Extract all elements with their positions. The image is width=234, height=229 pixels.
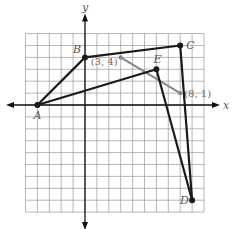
coordinate-plane: xy (3, 4)(8, 1) ABCDE	[0, 0, 234, 229]
y-axis-arrow-up-icon	[82, 14, 88, 22]
y-axis-arrow-down-icon	[82, 222, 88, 229]
vertex-C	[177, 43, 183, 49]
segment-3-4-to-8-1	[121, 57, 181, 93]
point-8-1	[178, 91, 182, 95]
vertex-A	[34, 102, 40, 108]
x-axis-arrow-right-icon	[212, 102, 220, 108]
label-A: A	[32, 109, 41, 122]
x-axis-label: x	[223, 99, 230, 112]
label-E: E	[152, 53, 161, 66]
coord-label-8-1: (8, 1)	[184, 88, 211, 99]
label-B: B	[72, 43, 81, 56]
y-axis-label: y	[81, 1, 89, 14]
x-axis-arrow-left-icon	[6, 102, 14, 108]
label-D: D	[179, 194, 189, 207]
label-C: C	[186, 39, 195, 52]
vertex-E	[153, 66, 159, 72]
point-3-4	[119, 55, 123, 59]
vertex-B	[82, 54, 88, 60]
coord-label-3-4: (3, 4)	[91, 56, 118, 67]
vertex-D	[189, 197, 195, 203]
